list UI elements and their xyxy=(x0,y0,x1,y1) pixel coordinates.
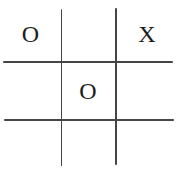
o-mark: O xyxy=(22,22,39,46)
cell-middle-left[interactable] xyxy=(0,62,61,120)
cell-middle-center[interactable]: O xyxy=(61,62,115,120)
cell-bottom-left[interactable] xyxy=(0,120,61,175)
x-mark: X xyxy=(138,22,155,46)
cell-top-right[interactable]: X xyxy=(115,0,179,62)
cell-top-left[interactable]: O xyxy=(0,0,61,62)
o-mark: O xyxy=(79,79,96,103)
cell-top-center[interactable] xyxy=(61,0,115,62)
cell-bottom-right[interactable] xyxy=(115,120,179,175)
tic-tac-toe-board: O X O xyxy=(0,0,179,175)
cell-middle-right[interactable] xyxy=(115,62,179,120)
cell-bottom-center[interactable] xyxy=(61,120,115,175)
